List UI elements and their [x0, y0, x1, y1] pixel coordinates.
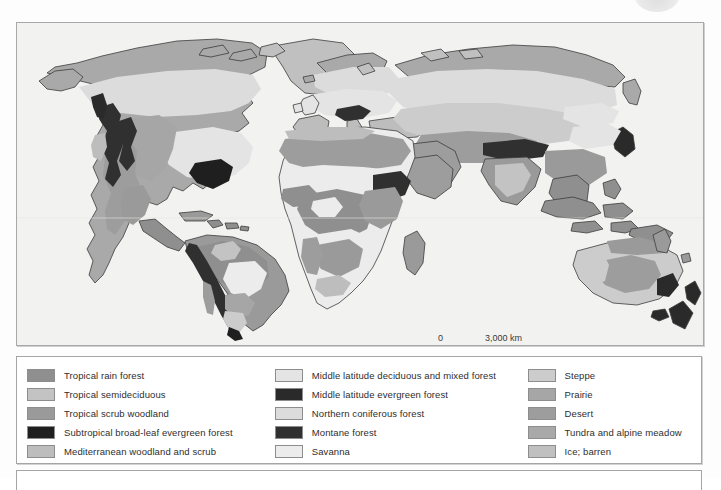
legend-swatch-tropical-rain-forest [27, 369, 55, 382]
legend-label-ice-barren: Ice; barren [565, 446, 612, 457]
legend-label-tropical-scrub-woodland: Tropical scrub woodland [64, 408, 169, 419]
legend-label-subtropical-broadleaf-evergreen-forest: Subtropical broad-leaf evergreen forest [64, 427, 233, 438]
legend-item: Mediterranean woodland and scrub [27, 442, 275, 460]
legend-label-savanna: Savanna [312, 446, 350, 457]
legend-label-middle-latitude-evergreen-forest: Middle latitude evergreen forest [312, 389, 448, 400]
legend-label-tropical-semideciduous: Tropical semideciduous [64, 389, 166, 400]
legend-label-montane-forest: Montane forest [312, 427, 377, 438]
legend-item: Savanna [275, 442, 528, 460]
legend-swatch-desert [528, 407, 556, 420]
next-panel-partial [16, 470, 702, 490]
legend-swatch-steppe [528, 369, 556, 382]
map-scale-bar: 0 3,000 km [427, 333, 539, 346]
legend-swatch-tropical-scrub-woodland [27, 407, 55, 420]
legend-item: Tropical semideciduous [27, 385, 275, 403]
legend-label-steppe: Steppe [565, 370, 596, 381]
legend-item: Ice; barren [528, 442, 701, 460]
legend-swatch-ice-barren [528, 445, 556, 458]
legend-label-tropical-rain-forest: Tropical rain forest [64, 370, 144, 381]
legend-item: Tundra and alpine meadow [528, 423, 701, 441]
map-legend-panel: Tropical rain forest Tropical semidecidu… [16, 356, 702, 464]
legend-item: Desert [528, 404, 701, 422]
legend-swatch-middle-latitude-deciduous-and-mixed-forest [275, 369, 303, 382]
legend-item: Steppe [528, 366, 701, 384]
legend-label-mediterranean-woodland-and-scrub: Mediterranean woodland and scrub [64, 446, 216, 457]
legend-label-tundra-and-alpine-meadow: Tundra and alpine meadow [565, 427, 682, 438]
legend-swatch-subtropical-broadleaf-evergreen-forest [27, 426, 55, 439]
legend-swatch-montane-forest [275, 426, 303, 439]
legend-item: Prairie [528, 385, 701, 403]
legend-item: Tropical scrub woodland [27, 404, 275, 422]
legend-column-2: Middle latitude deciduous and mixed fore… [275, 366, 528, 461]
legend-swatch-mediterranean-woodland-and-scrub [27, 445, 55, 458]
legend-swatch-tundra-and-alpine-meadow [528, 426, 556, 439]
scale-bar-max-label: 3,000 km [485, 333, 522, 343]
scale-bar-zero-label: 0 [438, 333, 443, 343]
legend-label-prairie: Prairie [565, 389, 593, 400]
legend-item: Middle latitude evergreen forest [275, 385, 528, 403]
legend-item: Tropical rain forest [27, 366, 275, 384]
legend-item: Northern coniferous forest [275, 404, 528, 422]
legend-item: Middle latitude deciduous and mixed fore… [275, 366, 528, 384]
legend-swatch-prairie [528, 388, 556, 401]
legend-swatch-northern-coniferous-forest [275, 407, 303, 420]
legend-item: Montane forest [275, 423, 528, 441]
legend-swatch-savanna [275, 445, 303, 458]
scan-artifact-blob [634, 0, 680, 12]
legend-label-middle-latitude-deciduous-and-mixed-forest: Middle latitude deciduous and mixed fore… [312, 370, 496, 381]
legend-swatch-tropical-semideciduous [27, 388, 55, 401]
legend-label-northern-coniferous-forest: Northern coniferous forest [312, 408, 424, 419]
legend-column-3: Steppe Prairie Desert Tundra and alpine … [528, 366, 701, 461]
world-biome-map-panel: .cl { stroke:#3c3c3c; stroke-width:0.8; … [16, 22, 704, 346]
legend-item: Subtropical broad-leaf evergreen forest [27, 423, 275, 441]
legend-column-1: Tropical rain forest Tropical semidecidu… [27, 366, 275, 461]
legend-label-desert: Desert [565, 408, 594, 419]
world-map-graphic: .cl { stroke:#3c3c3c; stroke-width:0.8; … [17, 23, 703, 345]
legend-swatch-middle-latitude-evergreen-forest [275, 388, 303, 401]
